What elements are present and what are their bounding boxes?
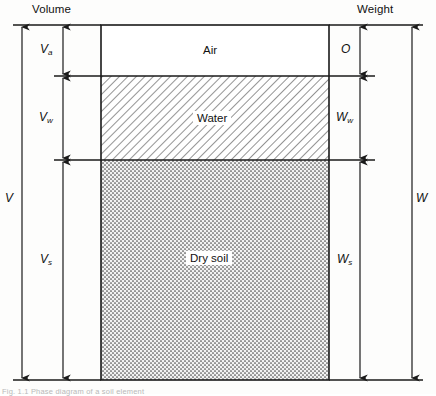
weight-dimension-arrows — [360, 27, 412, 378]
dim-sub-Ws: s — [348, 258, 352, 267]
dimension-label-volume-total: V — [5, 191, 13, 206]
dimension-label-weight-air: O — [341, 42, 350, 57]
dimension-label-volume-solids: Vs — [40, 252, 52, 267]
phase-label-water: Water — [193, 111, 231, 125]
dim-sub-Ww: w — [347, 116, 353, 125]
dim-sub-Vs: s — [48, 258, 52, 267]
phase-label-soil: Dry soil — [186, 251, 232, 265]
phase-blocks — [101, 25, 329, 380]
volume-dimension-arrows — [22, 27, 63, 378]
dim-base-Vs: V — [40, 252, 48, 266]
weight-column-header: Weight — [357, 3, 393, 15]
dim-base-Ww: W — [336, 110, 347, 124]
figure-caption: Fig. 1.1 Phase diagram of a soil element — [2, 387, 144, 396]
volume-column-header: Volume — [32, 3, 71, 15]
dim-base-Ws: W — [337, 252, 348, 266]
dim-base-V: V — [5, 191, 13, 205]
dimension-label-volume-water: Vw — [39, 110, 53, 125]
dim-sub-Vw: w — [47, 116, 53, 125]
dim-sub-Va: a — [48, 48, 52, 57]
dim-base-Vw: V — [39, 110, 47, 124]
dimension-label-weight-solids: Ws — [337, 252, 352, 267]
volume-tick-rules — [13, 25, 101, 380]
dim-base-W: W — [416, 191, 427, 205]
weight-tick-rules — [329, 25, 423, 380]
dimension-label-weight-total: W — [416, 191, 427, 206]
phase-label-air: Air — [199, 43, 221, 57]
dimension-label-volume-air: Va — [40, 42, 52, 57]
phase-block-soil — [101, 160, 329, 380]
dimension-label-weight-water: Ww — [336, 110, 353, 125]
dim-base-Va: V — [40, 42, 48, 56]
dim-base-O: O — [341, 42, 350, 56]
